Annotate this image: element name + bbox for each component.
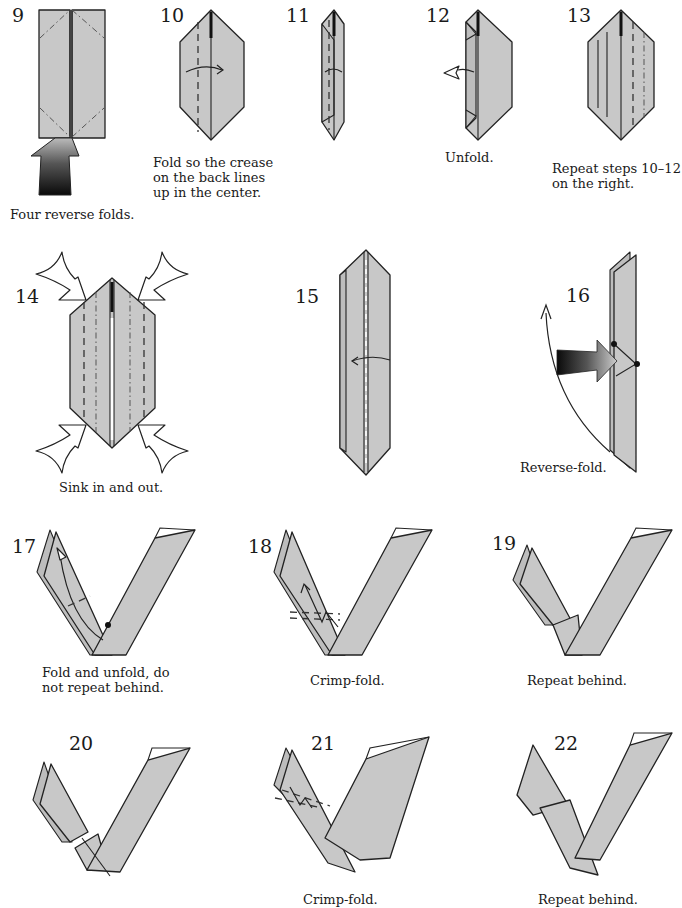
sink-arrow-icon [138, 425, 188, 473]
step-13-figure [588, 10, 654, 140]
diagram-canvas [0, 0, 682, 908]
step-caption: Crimp-fold. [303, 892, 378, 907]
step-20-figure [33, 748, 190, 876]
step-number: 17 [12, 537, 36, 556]
push-arrow-icon [31, 138, 79, 195]
step-22-figure [517, 733, 672, 875]
step-number: 18 [248, 537, 272, 556]
right-panel [72, 10, 105, 138]
step-number: 20 [69, 734, 93, 753]
step-number: 12 [426, 6, 450, 25]
step-number: 21 [311, 734, 335, 753]
step-18-figure [274, 528, 432, 655]
step-19-figure [513, 528, 672, 655]
step-number: 19 [492, 534, 516, 553]
step-caption: Repeat steps 10–12 on the right. [552, 161, 681, 191]
sink-arrow-icon [138, 252, 188, 300]
step-11-figure [322, 10, 344, 140]
step-caption: Unfold. [445, 150, 494, 165]
step-number: 13 [567, 6, 591, 25]
step-14-figure [36, 252, 188, 473]
step-caption: Repeat behind. [538, 892, 638, 907]
left-panel [39, 10, 70, 138]
step-number: 10 [160, 6, 184, 25]
step-caption: Reverse-fold. [520, 460, 607, 475]
sink-arrow-icon [36, 252, 86, 300]
sink-arrow-icon [36, 425, 86, 473]
step-16-figure [541, 252, 640, 472]
push-arrow-icon [557, 340, 617, 382]
step-caption: Crimp-fold. [310, 673, 385, 688]
fold-arrow-icon [546, 313, 610, 452]
step-21-figure [274, 737, 429, 872]
step-15-figure [340, 250, 390, 475]
step-number: 16 [566, 286, 590, 305]
step-number: 11 [286, 6, 310, 25]
reference-dot [105, 622, 111, 628]
step-10-figure [180, 10, 244, 140]
step-number: 22 [554, 734, 578, 753]
step-caption: Fold so the crease on the back lines up … [153, 155, 273, 200]
step-caption: Sink in and out. [59, 480, 163, 495]
step-caption: Four reverse folds. [10, 207, 134, 222]
reference-dot [611, 341, 617, 347]
reference-dot [634, 361, 640, 367]
step-caption: Fold and unfold, do not repeat behind. [42, 665, 170, 695]
step-9-figure [31, 10, 105, 195]
step-caption: Repeat behind. [527, 673, 627, 688]
step-number: 9 [12, 6, 24, 25]
step-12-figure [444, 10, 512, 140]
step-17-figure [37, 528, 195, 655]
step-number: 14 [15, 287, 39, 306]
step-number: 15 [295, 287, 319, 306]
